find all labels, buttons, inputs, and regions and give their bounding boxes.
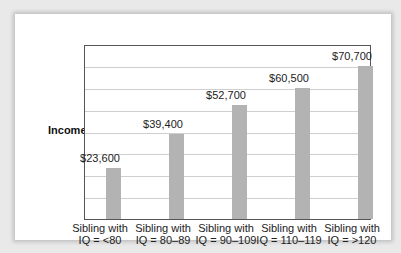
- y-axis-label: Income: [48, 124, 87, 136]
- bar-iq-over-120: [358, 66, 373, 219]
- gridline: [85, 176, 370, 177]
- chart-card: Income $23,600 $39,400 $52,700 $60,500 $…: [15, 14, 391, 240]
- value-label: $70,700: [317, 50, 387, 62]
- value-label: $60,500: [254, 72, 324, 84]
- plot-area: [84, 45, 371, 220]
- gridline: [85, 133, 370, 134]
- x-tick-line1: Sibling with: [254, 222, 324, 234]
- x-tick-line1: Sibling with: [317, 222, 387, 234]
- gridline: [85, 198, 370, 199]
- bar-iq-under-80: [106, 168, 121, 219]
- x-tick-label: Sibling with IQ = >120: [317, 222, 387, 246]
- value-label: $52,700: [191, 89, 261, 101]
- gridline: [85, 111, 370, 112]
- x-tick-line2: IQ = 110–119: [254, 234, 324, 246]
- bar-iq-90-109: [232, 105, 247, 219]
- x-tick-line2: IQ = 90–109: [191, 234, 261, 246]
- value-label: $23,600: [65, 152, 135, 164]
- x-tick-line1: Sibling with: [128, 222, 198, 234]
- gridline: [85, 67, 370, 68]
- x-tick-label: Sibling with IQ = 90–109: [191, 222, 261, 246]
- x-tick-label: Sibling with IQ = 80–89: [128, 222, 198, 246]
- x-tick-line1: Sibling with: [191, 222, 261, 234]
- value-label: $39,400: [128, 118, 198, 130]
- x-tick-label: Sibling with IQ = 110–119: [254, 222, 324, 246]
- x-tick-label: Sibling with IQ = <80: [65, 222, 135, 246]
- x-tick-line2: IQ = >120: [317, 234, 387, 246]
- x-tick-line1: Sibling with: [65, 222, 135, 234]
- bar-iq-110-119: [295, 88, 310, 219]
- x-tick-line2: IQ = 80–89: [128, 234, 198, 246]
- x-tick-line2: IQ = <80: [65, 234, 135, 246]
- bar-iq-80-89: [169, 134, 184, 219]
